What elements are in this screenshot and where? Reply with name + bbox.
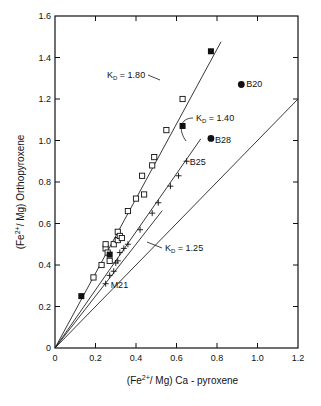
- open-square-marker: [139, 173, 144, 178]
- kd-line: [55, 42, 221, 348]
- open-square-marker: [164, 128, 169, 133]
- kd-line: [55, 99, 298, 348]
- data-points: [78, 48, 244, 299]
- y-tick-label: 1.0: [38, 136, 51, 146]
- y-axis-label: (Fe2+/ Mg) Orthopyroxene: [14, 134, 26, 249]
- x-tick-label: 1.2: [292, 353, 305, 363]
- filled-circle-marker: [208, 135, 215, 142]
- kd-label: KD = 1.80: [107, 70, 145, 81]
- chart: 00.20.40.60.81.01.200.20.40.60.81.01.21.…: [0, 0, 321, 406]
- filled-circle-marker: [238, 81, 245, 88]
- kd-140-pointer: [181, 118, 193, 141]
- open-square-marker: [133, 196, 138, 201]
- filled-square-marker: [78, 293, 84, 299]
- x-tick-label: 0.2: [89, 353, 102, 363]
- open-square-marker: [142, 192, 147, 197]
- open-square-marker: [150, 163, 155, 168]
- filled-square-marker: [208, 48, 214, 54]
- x-axis-label: (Fe2+/ Mg) Ca - pyroxene: [127, 374, 239, 386]
- y-tick-label: 0.6: [38, 219, 51, 229]
- kd-line: [55, 211, 162, 348]
- filled-square-marker: [180, 123, 186, 129]
- open-square-marker: [107, 258, 112, 263]
- y-tick-label: 0.4: [38, 260, 51, 270]
- open-square-marker: [180, 96, 185, 101]
- kd-label: KD = 1.40: [196, 113, 234, 124]
- x-tick-label: 1.0: [251, 353, 264, 363]
- annotation-label: M21: [111, 280, 129, 290]
- y-tick-label: 0.2: [38, 302, 51, 312]
- kd-125-pointer: [147, 242, 162, 248]
- x-tick-label: 0.4: [130, 353, 143, 363]
- kd-180-pointer: [148, 75, 160, 80]
- annotation-label: B28: [215, 135, 231, 145]
- open-square-marker: [91, 275, 96, 280]
- x-tick-label: 0: [52, 353, 57, 363]
- annotation-label: B20: [246, 79, 262, 89]
- annotation-label: B25: [190, 157, 206, 167]
- x-tick-label: 0.8: [211, 353, 224, 363]
- open-square-marker: [152, 155, 157, 160]
- axis-ticks: 00.20.40.60.81.01.200.20.40.60.81.01.21.…: [38, 11, 304, 363]
- open-square-marker: [103, 242, 108, 247]
- kd-label: KD = 1.25: [165, 243, 203, 254]
- open-square-marker: [99, 262, 104, 267]
- plot-border: [55, 16, 298, 348]
- y-tick-label: 1.6: [38, 11, 51, 21]
- y-tick-label: 1.2: [38, 94, 51, 104]
- open-square-marker: [125, 208, 130, 213]
- y-tick-label: 0.8: [38, 177, 51, 187]
- plot-frame: [55, 16, 298, 348]
- x-tick-label: 0.6: [170, 353, 183, 363]
- y-tick-label: 0: [46, 343, 51, 353]
- annotations: B20B28B25M21KD = 1.80KD = 1.40KD = 1.25: [107, 70, 262, 290]
- y-tick-label: 1.4: [38, 53, 51, 63]
- filled-square-marker: [107, 252, 113, 258]
- open-square-marker: [119, 235, 124, 240]
